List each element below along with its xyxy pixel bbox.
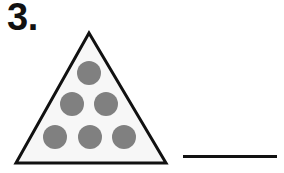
dot-row3-1 bbox=[43, 125, 67, 149]
dot-row2-1 bbox=[60, 92, 84, 116]
dot-row3-2 bbox=[78, 125, 102, 149]
dot-row1-1 bbox=[77, 61, 101, 85]
triangle-figure bbox=[10, 27, 172, 169]
worksheet-page: 3. bbox=[0, 0, 284, 173]
dot-row3-3 bbox=[112, 125, 136, 149]
answer-blank-line[interactable] bbox=[183, 155, 277, 158]
dot-row2-2 bbox=[94, 92, 118, 116]
triangle-with-dots-svg bbox=[10, 27, 172, 169]
